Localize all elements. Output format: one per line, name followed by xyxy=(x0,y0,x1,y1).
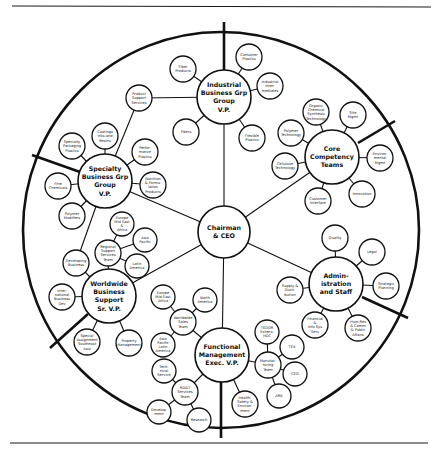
node-product-support-services: ProductSupportServices xyxy=(126,85,152,111)
node-label: Affairs xyxy=(352,333,364,337)
node-label: Business xyxy=(68,263,84,267)
node-label: Asia xyxy=(83,347,91,351)
node-label: Africa xyxy=(117,228,127,232)
node-industrial-inter-mediates: IndustrialInter-mediates xyxy=(257,73,283,99)
node-developing-business: DevelopingBusiness xyxy=(63,250,89,276)
node-europe-mid-east-africa: EuropeMid EastAfrica xyxy=(151,285,175,309)
node-worldwide-business-support-sr-v-p: WorldwideBusinessSupportSr. V.P. xyxy=(82,269,136,323)
node-supply-distri-bution: Supply &Distri-bution xyxy=(277,277,303,303)
node-label: Business xyxy=(93,288,125,295)
node-organic-chemical-synthesis-technology: OrganicChemicalSynthesisTechnology xyxy=(303,99,329,125)
node-label: Mgmt xyxy=(375,161,386,165)
node-label: Group xyxy=(94,181,116,189)
node-label: istration xyxy=(321,280,351,287)
node-label: Technology xyxy=(305,117,327,121)
node-label: Dev xyxy=(58,302,66,306)
node-label: Team xyxy=(177,325,188,329)
node-regional-support-services-team: RegionalSupportServicesTeam xyxy=(95,240,121,266)
node-quality: Quality xyxy=(322,225,348,251)
node-chairman-ceo: Chairman& CEO xyxy=(198,206,250,258)
node-label: Technology xyxy=(280,133,302,137)
sector-divider xyxy=(358,121,395,143)
node-worldwide-sales-team: WorldwideSalesTeam xyxy=(170,309,196,335)
node-label: Africa xyxy=(158,299,168,303)
node-label: America xyxy=(130,266,145,270)
node-europe-mid-east-africa: EuropeMid East&Africa xyxy=(110,212,134,236)
node-industrial-business-grp-group-v-p: IndustrialBusiness GrpGroupV.P. xyxy=(197,70,251,124)
node-customer-interface: CustomerInterface xyxy=(305,188,331,214)
node-label: America xyxy=(156,349,171,353)
node-label: Resins xyxy=(99,139,111,143)
node-label: Fibers xyxy=(181,130,192,134)
node-perfor-mance-plastics: Perfor-mancePlastics xyxy=(132,139,158,165)
node-label: ment xyxy=(240,409,250,413)
node-label: Business Grp xyxy=(201,89,248,97)
node-label: V.P. xyxy=(218,106,230,113)
node-label: Interface xyxy=(310,201,327,205)
node-fiber-products: FiberProducts xyxy=(170,56,196,82)
node-label: ment xyxy=(154,412,164,416)
organization-chart: FiberProductsContainerPlasticsIndustrial… xyxy=(0,0,442,458)
node-label: Exec. V.P. xyxy=(205,359,238,366)
node-label: and Staff xyxy=(320,288,353,295)
node-label: Team xyxy=(102,258,113,262)
node-label: Chairman xyxy=(207,224,241,231)
node-label: Functional xyxy=(203,343,240,350)
node-label: Planning xyxy=(378,286,393,290)
node-innovation: Innovation xyxy=(349,181,375,207)
node-property-management: PropertyManagement xyxy=(116,330,142,356)
node-label: mediates xyxy=(262,89,279,93)
node-label: Legal xyxy=(367,250,377,254)
node-label: HDC xyxy=(263,334,271,338)
top-rule xyxy=(12,6,431,7)
node-hum-res-comm-public-affairs: Hum Res& Comm& PublicAffairs xyxy=(345,315,371,341)
node-label: Plastics xyxy=(242,57,256,61)
node-manufac-turing-team: Manufac-turingTeam xyxy=(255,352,281,378)
node-label: Team xyxy=(179,395,190,399)
node-ark: ARK xyxy=(267,384,291,408)
node-tech-nical-service: Tech-nicalService xyxy=(152,359,176,383)
node-label: Plastics xyxy=(138,155,152,159)
node-label: Service xyxy=(157,373,171,377)
node-container-plastics: ContainerPlastics xyxy=(236,44,262,70)
node-research: Research xyxy=(187,408,211,432)
node-label: Industrial xyxy=(207,81,241,88)
node-cellulose-technology: CelluloseTechnology xyxy=(272,153,298,179)
node-health-safety-environ-ment: Health,Safety &Environ-ment xyxy=(232,391,258,417)
node-label: Admin- xyxy=(323,272,349,279)
node-label: & CEO xyxy=(213,232,236,239)
node-label: Technology xyxy=(274,166,296,170)
node-label: Pacific xyxy=(139,240,150,244)
node-label: Modifiers xyxy=(64,216,81,220)
node-label: Services xyxy=(131,101,146,105)
node-label: Management xyxy=(199,351,245,359)
node-label: America xyxy=(198,300,213,304)
node-label: Quality xyxy=(329,236,343,240)
node-core-competency-teams: CoreCompetencyTeams xyxy=(305,130,359,184)
node-label: Specialty xyxy=(89,165,122,173)
node-legal: Legal xyxy=(359,239,385,265)
node-label: Products xyxy=(145,190,161,194)
node-latin-america: LatinAmerica xyxy=(125,254,149,278)
node-ceo: CEO xyxy=(283,362,307,386)
node-label: Support xyxy=(95,296,123,304)
node-north-america: NorthAmerica xyxy=(193,288,217,312)
node-label: Business Grp xyxy=(82,173,129,181)
node-label: Core xyxy=(324,145,340,152)
org-nodes: FiberProductsContainerPlasticsIndustrial… xyxy=(45,44,399,432)
node-polymer-technology: PolymerTechnology xyxy=(278,120,304,146)
node-label: Products xyxy=(175,69,191,73)
node-label: Sr. V.P. xyxy=(97,305,121,312)
node-label: Serv xyxy=(311,330,320,334)
node-polymer-modifiers: PolymerModifiers xyxy=(59,203,85,229)
node-admin-istration-and-staff: Admin-istrationand Staff xyxy=(309,257,363,311)
node-financial-info-sys-serv: Financial&Info SysServ xyxy=(302,312,328,338)
node-label: Plastics xyxy=(65,149,79,153)
node-functional-management-exec-v-p: FunctionalManagementExec. V.P. xyxy=(195,328,249,382)
node-coatings-inks-and-resins: CoatingsInks andResins xyxy=(92,123,118,149)
node-environ-mental-mgmt: Environ-mentalMgmt xyxy=(367,145,393,171)
node-label: Management xyxy=(117,343,141,347)
sector-divider xyxy=(362,297,408,318)
node-develop-ment: Develop-ment xyxy=(147,400,171,424)
node-inter-national-business-dev: Inter-nationalBusinessDev xyxy=(49,284,75,310)
